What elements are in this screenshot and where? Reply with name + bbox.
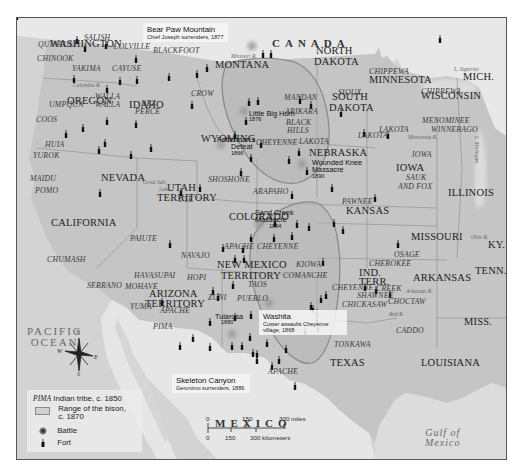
event-fetterman[interactable]: Fetterman's Defeat 1866 [217,136,255,156]
tribe-label-pawnee: PAWNEE [342,198,373,206]
legend-bison: Range of the bison, c. 1870 [33,405,126,421]
river-label-red-r: Red R. [389,312,404,318]
state-label-arkansas: ARKANSAS [413,273,471,284]
tribe-label-colville: COLVILLE [113,43,150,51]
legend-tribe: PIMA Indian tribe, c. 1850 [33,394,122,403]
map-frame: CANADA MEXICO PACIFIC OCEAN Gulf of Mexi… [16,17,507,460]
river-label-minnesota-r: Minnesota R. [408,135,437,141]
tribe-label-mohave: MOHAVE [125,283,158,291]
event-subtitle: 1864 [255,224,294,230]
tribe-label-lakota: LAKOTA [379,126,409,134]
event-subtitle: 1866 [217,151,255,157]
tribe-label-sauk: SAUK [406,174,426,182]
event-subtitle: Chief Joseph surrenders, 1877 [147,34,224,40]
tribe-label-zuni: ZUNI [208,294,227,302]
event-skeleton-canyon[interactable]: Skeleton Canyon Geronimo surrenders, 188… [172,374,250,393]
tribe-label-sioux: SIOUX [338,89,362,97]
tribe-label-salish: SALISH [84,34,110,42]
tribe-label-lakota: LAKOTA [299,138,329,146]
event-subtitle: 1876 [249,117,295,123]
battle-icon [39,427,47,435]
event-little-big-horn[interactable]: Little Big Horn 1876 [249,110,295,123]
tribe-label-crow: CROW [191,90,214,98]
event-wounded-knee[interactable]: Wounded Knee Massacre 1890 [312,159,362,179]
state-label-north: NORTH [316,46,353,57]
bison-range-swatch-icon [35,407,50,415]
legend-fort-label: Fort [57,438,71,447]
event-washita[interactable]: Washita Custer assaults Cheyenne village… [259,310,347,335]
event-subtitle: Geronimo surrenders, 1886 [176,385,246,391]
state-label-ky: KY. [488,240,505,251]
event-title: Skeleton Canyon [176,376,246,385]
state-label-new-mexico: NEW MEXICO [217,260,287,271]
compass-n: N [76,329,80,335]
legend-battle: Battle [33,426,77,435]
tribe-label-navajo: NAVAJO [181,252,210,260]
tribe-label-serrano: SERRANO [87,282,122,290]
state-label-tenn: TENN. [475,266,507,277]
tribe-label-huia: HUIA [45,141,64,149]
scale-km-300: 300 kilometers [250,435,290,441]
state-label-missouri: MISSOURI [411,232,463,243]
compass-e: E [94,354,98,360]
compass-rose: N S W E [59,333,99,373]
tribe-label-shoshone: SHOSHONE [208,176,250,184]
tribe-label-caddo: CADDO [396,327,424,335]
state-label-minnesota: MINNESOTA [369,75,432,86]
tribe-label-cheyenne: CHEYENNE [257,243,298,251]
tribe-label-blackfoot: BLACKFOOT [153,47,199,55]
label-lake-michigan: L. Michigan [474,136,480,163]
tribe-label-havasupai: HAVASUPAI [134,272,175,280]
tribe-label-menominee: MENOMINEE [422,117,470,125]
river-label-great-salt: Great Salt [143,180,166,186]
label-gulf-of-mexico: Gulf of Mexico [425,428,460,448]
tribe-label-maidu: MAIDU [30,175,56,183]
event-title: Washita [263,312,343,321]
tribe-label-pima: PIMA [153,323,172,331]
tribe-label-choctaw: CHOCTAW [388,298,426,306]
event-bear-paw[interactable]: Bear Paw Mountain Chief Joseph surrender… [143,23,228,42]
tribe-label-apache: APACHE [160,307,190,315]
legend-tribe-label: Indian tribe, c. 1850 [53,394,122,403]
state-label-kansas: KANSAS [346,206,389,217]
tribe-label-quinault: QUINAULT [38,41,78,49]
state-label-nebraska: NEBRASKA [309,148,367,159]
tribe-label-apache: APACHE [268,368,298,376]
tribe-label-comanche: COMANCHE [283,272,327,280]
tribe-label-osage: OSAGE [394,251,420,259]
river-label-ohio-r: Ohio R. [471,235,488,241]
tribe-label-ute: UTE [178,196,193,204]
state-label-dakota: DAKOTA [314,57,359,68]
tribe-label-chumash: CHUMASH [47,256,86,264]
state-label-california: CALIFORNIA [51,218,117,229]
tribe-label-yurok: YUROK [33,152,60,160]
map-legend: PIMA Indian tribe, c. 1850 Range of the … [27,390,142,452]
river-label-missouri-r: Missouri R. [231,54,257,60]
event-sand-creek[interactable]: Sand Creek Massacre 1864 [255,209,294,229]
tribe-label-chippewa: CHIPPEWA [369,68,409,76]
tribe-label-cherokee: CHEROKEE [369,260,411,268]
state-label-iowa: IOWA [396,163,424,174]
tribe-label-chinook: CHINOOK [37,55,74,63]
event-title: Bear Paw Mountain [147,25,224,34]
tribe-label-mandan: MANDAN [284,94,317,102]
tribe-label-chickasaw: CHICKASAW [342,301,387,309]
state-label-miss: MISS. [464,317,492,328]
tribe-label-umpqua: UMPQUA [49,101,83,109]
state-label-dakota: DAKOTA [329,103,374,114]
state-label-nevada: NEVADA [101,173,145,184]
state-label-illinois: ILLINOIS [448,188,494,199]
event-subtitle: Custer assaults Cheyenne village, 1868 [263,321,343,333]
tribe-label-pueblo: PUEBLO [237,295,268,303]
scale-km-0: 0 [206,435,209,441]
compass-s: S [77,371,80,377]
river-label-lake: Lake [159,187,170,193]
scale-km-150: 150 [225,435,235,441]
state-label-montana: MONTANA [215,60,269,71]
event-subtitle: 1890 [312,174,362,180]
state-label-mich: MICH. [463,72,494,83]
event-tularosa[interactable]: Tularosa 1880 [215,313,243,326]
fort-icon [39,439,47,447]
tribe-label-perce: PERCE [135,108,160,116]
tribe-label-yakima: YAKIMA [72,65,101,73]
